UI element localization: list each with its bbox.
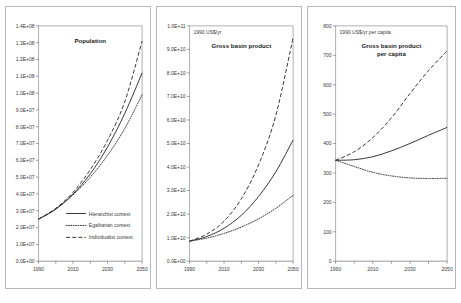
x-tick-label: 2050 xyxy=(288,266,299,272)
y-tick-label: 0 xyxy=(329,258,332,264)
panel-title-line2: per capita xyxy=(377,50,406,57)
y-tick-label: 6.0E+10 xyxy=(167,117,186,123)
chart-panel-gross-basin-product: 0.0E+001.0E+102.0E+103.0E+104.0E+105.0E+… xyxy=(156,6,302,289)
series-line-dashed xyxy=(336,51,447,160)
y-tick-label: 600 xyxy=(323,82,332,88)
y-tick-label: 9.0E+10 xyxy=(167,46,186,52)
panel-title: Gross basin product xyxy=(362,42,422,49)
unit-label: 1990 US$/yr per capita xyxy=(340,29,391,35)
y-tick-label: 400 xyxy=(323,140,332,146)
y-tick-label: 1.2E+08 xyxy=(16,56,35,62)
x-tick-label: 2030 xyxy=(404,266,415,272)
y-tick-label: 700 xyxy=(323,52,332,58)
population-chart-svg: 0.0E+001.0E+072.0E+073.0E+074.0E+075.0E+… xyxy=(6,7,150,288)
series-line-solid xyxy=(190,140,294,241)
figure-root: 0.0E+001.0E+072.0E+073.0E+074.0E+075.0E+… xyxy=(0,0,461,303)
y-tick-label: 0.0E+00 xyxy=(167,258,186,264)
y-tick-label: 3.0E+07 xyxy=(16,208,35,214)
y-tick-label: 7.0E+10 xyxy=(167,93,186,99)
y-tick-label: 200 xyxy=(323,199,332,205)
y-tick-label: 1.0E+11 xyxy=(167,23,186,29)
series-line-dotted xyxy=(39,95,143,219)
gross-basin-product-chart-svg: 0.0E+001.0E+102.0E+103.0E+104.0E+105.0E+… xyxy=(157,7,301,288)
y-tick-label: 800 xyxy=(323,23,332,29)
unit-label: 1990 US$/yr xyxy=(193,29,221,35)
legend-label: Individualist context xyxy=(89,234,133,240)
panel-title: Gross basin product xyxy=(211,42,271,49)
legend-label: Hierarchist context xyxy=(89,210,131,216)
legend-label: Egalitarian context xyxy=(89,222,131,228)
y-tick-label: 1.0E+10 xyxy=(167,235,186,241)
y-tick-label: 5.0E+07 xyxy=(16,174,35,180)
y-tick-label: 1.0E+08 xyxy=(16,90,35,96)
y-tick-label: 100 xyxy=(323,229,332,235)
y-tick-label: 4.0E+07 xyxy=(16,191,35,197)
x-tick-label: 2010 xyxy=(367,266,378,272)
series-line-dotted xyxy=(190,195,294,241)
y-tick-label: 6.0E+07 xyxy=(16,157,35,163)
plot-frame xyxy=(336,26,447,261)
y-tick-label: 1.1E+08 xyxy=(16,73,35,79)
y-tick-label: 8.0E+07 xyxy=(16,124,35,130)
y-tick-label: 500 xyxy=(323,111,332,117)
x-tick-label: 2010 xyxy=(218,266,229,272)
panel-title: Population xyxy=(75,37,107,44)
x-tick-label: 1990 xyxy=(184,266,195,272)
x-tick-label: 1990 xyxy=(33,266,44,272)
y-tick-label: 2.0E+07 xyxy=(16,224,35,230)
series-line-dotted xyxy=(336,160,447,178)
y-tick-label: 5.0E+10 xyxy=(167,140,186,146)
x-tick-label: 2050 xyxy=(442,266,453,272)
gross-basin-product-per-capita-chart-svg: 0100200300400500600700800199020102030205… xyxy=(308,7,455,288)
y-tick-label: 8.0E+10 xyxy=(167,70,186,76)
y-tick-label: 300 xyxy=(323,170,332,176)
x-tick-label: 1990 xyxy=(330,266,341,272)
plot-frame xyxy=(190,26,294,261)
y-tick-label: 1.0E+07 xyxy=(16,241,35,247)
y-tick-label: 7.0E+07 xyxy=(16,140,35,146)
chart-panel-gross-basin-product-per-capita: 0100200300400500600700800199020102030205… xyxy=(307,6,456,289)
series-line-solid xyxy=(336,127,447,160)
series-line-dashed xyxy=(190,38,294,242)
y-tick-label: 2.0E+10 xyxy=(167,211,186,217)
y-tick-label: 1.3E+08 xyxy=(16,40,35,46)
x-tick-label: 2030 xyxy=(102,266,113,272)
series-line-dashed xyxy=(39,41,143,219)
y-tick-label: 1.4E+08 xyxy=(16,23,35,29)
x-tick-label: 2050 xyxy=(137,266,148,272)
y-tick-label: 0.0E+00 xyxy=(16,258,35,264)
x-tick-label: 2030 xyxy=(253,266,264,272)
chart-panel-population: 0.0E+001.0E+072.0E+073.0E+074.0E+075.0E+… xyxy=(5,6,151,289)
x-tick-label: 2010 xyxy=(67,266,78,272)
y-tick-label: 9.0E+07 xyxy=(16,107,35,113)
y-tick-label: 3.0E+10 xyxy=(167,187,186,193)
y-tick-label: 4.0E+10 xyxy=(167,164,186,170)
